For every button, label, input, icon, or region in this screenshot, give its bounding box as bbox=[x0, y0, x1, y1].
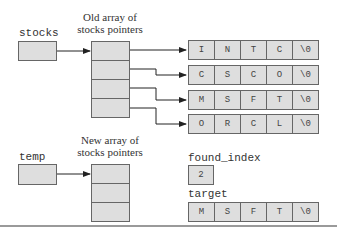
char-cell: T bbox=[266, 90, 293, 110]
char-cell: C bbox=[240, 65, 267, 85]
bottom-divider bbox=[0, 225, 337, 227]
new-array-cell-2 bbox=[91, 202, 130, 222]
diagram-canvas: stocks Old array of stocks pointers I N … bbox=[0, 0, 337, 238]
char-cell: L bbox=[266, 114, 293, 134]
stocks-pointer-box bbox=[18, 41, 57, 61]
char-cell: S bbox=[214, 202, 241, 222]
temp-label: temp bbox=[19, 151, 45, 163]
char-cell: N bbox=[214, 40, 241, 60]
new-array-cell-0 bbox=[91, 164, 130, 184]
found-index-label: found_index bbox=[188, 152, 261, 164]
null-terminator-cell: \0 bbox=[292, 202, 319, 222]
old-array-caption-line1: Old array of bbox=[70, 11, 150, 23]
char-cell: O bbox=[188, 114, 215, 134]
old-array-cell-1 bbox=[91, 60, 130, 80]
char-cell: F bbox=[240, 202, 267, 222]
old-array-caption-line2: stocks pointers bbox=[70, 23, 150, 35]
target-label: target bbox=[188, 188, 228, 200]
char-cell: O bbox=[266, 65, 293, 85]
new-array-caption-line2: stocks pointers bbox=[70, 146, 150, 158]
null-terminator-cell: \0 bbox=[292, 40, 319, 60]
new-array-caption: New array of stocks pointers bbox=[70, 134, 150, 158]
old-array-cell-3 bbox=[91, 98, 130, 118]
char-cell: C bbox=[266, 40, 293, 60]
new-array-caption-line1: New array of bbox=[70, 134, 150, 146]
char-cell: C bbox=[240, 114, 267, 134]
old-array-cell-0 bbox=[91, 41, 130, 61]
temp-pointer-box bbox=[18, 164, 57, 185]
old-array-cell-2 bbox=[91, 79, 130, 99]
null-terminator-cell: \0 bbox=[292, 65, 319, 85]
char-cell: S bbox=[214, 90, 241, 110]
char-cell: T bbox=[240, 40, 267, 60]
char-cell: R bbox=[214, 114, 241, 134]
char-cell: I bbox=[188, 40, 215, 60]
char-cell: M bbox=[188, 202, 215, 222]
char-cell: F bbox=[240, 90, 267, 110]
char-cell: C bbox=[188, 65, 215, 85]
old-array-caption: Old array of stocks pointers bbox=[70, 11, 150, 35]
null-terminator-cell: \0 bbox=[292, 90, 319, 110]
char-cell: S bbox=[214, 65, 241, 85]
stocks-label: stocks bbox=[19, 27, 59, 39]
new-array-cell-1 bbox=[91, 183, 130, 203]
null-terminator-cell: \0 bbox=[292, 114, 319, 134]
char-cell: T bbox=[266, 202, 293, 222]
char-cell: M bbox=[188, 90, 215, 110]
found-index-value: 2 bbox=[188, 165, 214, 185]
